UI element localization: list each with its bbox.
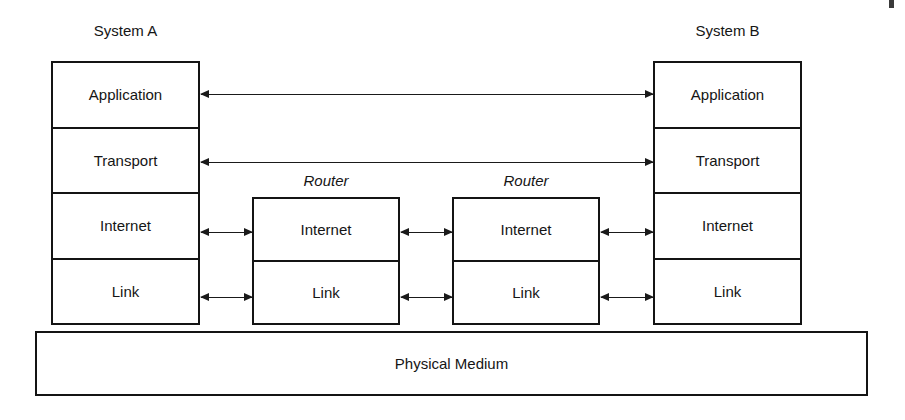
router-2-layer-link[interactable]: Link — [454, 262, 598, 323]
arrowhead-left-icon — [200, 228, 209, 236]
protocol-stack-diagram: System A Router Router System B Applicat… — [0, 0, 905, 420]
arrowhead-right-icon — [645, 228, 654, 236]
router-1-layer-internet[interactable]: Internet — [254, 199, 398, 262]
arrowhead-left-icon — [600, 293, 609, 301]
link-hop-arrow-r2-b — [601, 297, 653, 298]
router-2-layer-internet[interactable]: Internet — [454, 199, 598, 262]
physical-medium-label: Physical Medium — [395, 355, 508, 372]
arrowhead-right-icon — [645, 90, 654, 98]
system-a-layer-link[interactable]: Link — [53, 260, 198, 324]
system-a-stack: Application Transport Internet Link — [51, 61, 200, 325]
physical-medium-bar: Physical Medium — [35, 331, 868, 396]
arrowhead-right-icon — [444, 228, 453, 236]
system-a-layer-internet[interactable]: Internet — [53, 194, 198, 260]
internet-hop-arrow-r1-r2 — [401, 232, 452, 233]
system-b-layer-transport[interactable]: Transport — [655, 129, 800, 195]
transport-peer-arrow — [201, 162, 653, 163]
scan-artifact — [889, 0, 894, 8]
system-a-layer-transport[interactable]: Transport — [53, 129, 198, 195]
arrowhead-left-icon — [200, 293, 209, 301]
arrowhead-right-icon — [244, 293, 253, 301]
system-b-stack: Application Transport Internet Link — [653, 61, 802, 325]
internet-hop-arrow-a-r1 — [201, 232, 252, 233]
system-a-caption: System A — [51, 22, 200, 39]
application-peer-arrow — [201, 94, 653, 95]
link-hop-arrow-r1-r2 — [401, 297, 452, 298]
system-b-layer-link[interactable]: Link — [655, 260, 800, 324]
router-1-caption: Router — [252, 172, 400, 189]
arrowhead-left-icon — [600, 228, 609, 236]
system-b-layer-internet[interactable]: Internet — [655, 194, 800, 260]
arrowhead-left-icon — [200, 90, 209, 98]
system-a-layer-application[interactable]: Application — [53, 63, 198, 129]
internet-hop-arrow-r2-b — [601, 232, 653, 233]
router-2-stack: Internet Link — [452, 197, 600, 325]
system-b-layer-application[interactable]: Application — [655, 63, 800, 129]
arrowhead-right-icon — [645, 158, 654, 166]
arrowhead-left-icon — [200, 158, 209, 166]
arrowhead-left-icon — [400, 293, 409, 301]
router-1-layer-link[interactable]: Link — [254, 262, 398, 323]
arrowhead-left-icon — [400, 228, 409, 236]
router-2-caption: Router — [452, 172, 600, 189]
link-hop-arrow-a-r1 — [201, 297, 252, 298]
router-1-stack: Internet Link — [252, 197, 400, 325]
system-b-caption: System B — [653, 22, 802, 39]
arrowhead-right-icon — [645, 293, 654, 301]
arrowhead-right-icon — [444, 293, 453, 301]
arrowhead-right-icon — [244, 228, 253, 236]
